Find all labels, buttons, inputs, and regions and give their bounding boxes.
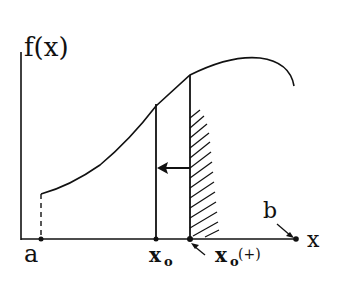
a-point (39, 237, 44, 242)
diagram-canvas: f(x) x a b x o x o (+) (0, 0, 354, 297)
x0-subscript: o (164, 254, 173, 269)
x0plus-suffix: (+) (238, 246, 261, 262)
x-axis-label: x (307, 227, 320, 252)
x0plus-pointer-arrow (191, 243, 205, 255)
a-label: a (24, 240, 38, 268)
left-arrow-icon (157, 162, 190, 174)
x0-point (154, 237, 159, 242)
x0-label: x (149, 243, 162, 267)
y-axis-label: f(x) (24, 32, 69, 62)
b-point (293, 236, 299, 242)
hatched-region (190, 110, 219, 237)
b-pointer-arrow (277, 224, 294, 238)
x0plus-point (187, 236, 193, 242)
x0plus-label: x (215, 243, 228, 267)
b-label: b (263, 198, 277, 223)
